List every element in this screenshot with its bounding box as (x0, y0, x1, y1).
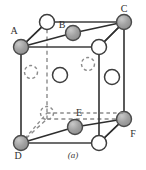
atom-interior-center-left (53, 68, 68, 83)
bond-D-E (21, 127, 75, 143)
atom-D (14, 136, 29, 151)
label-F: F (130, 128, 136, 139)
figure-caption: (a) (0, 150, 146, 160)
atom-interior-right (105, 70, 120, 85)
label-B: B (59, 19, 66, 30)
label-A: A (10, 25, 18, 36)
atom-B (66, 26, 81, 41)
atom-back-top-left (40, 15, 55, 30)
hidden-atom-left (25, 66, 38, 79)
unit-cell-diagram: A B C D E F (0, 0, 146, 170)
atom-front-bottom-right (92, 136, 107, 151)
label-E: E (76, 107, 82, 118)
label-C: C (121, 3, 128, 14)
atom-A (14, 40, 29, 55)
atom-E (68, 120, 83, 135)
atom-front-top-right (92, 40, 107, 55)
crystal-structure-figure: A B C D E F (0, 0, 146, 170)
atom-F (117, 112, 132, 127)
atom-C (117, 15, 132, 30)
hidden-atom-upper-right (82, 58, 95, 71)
